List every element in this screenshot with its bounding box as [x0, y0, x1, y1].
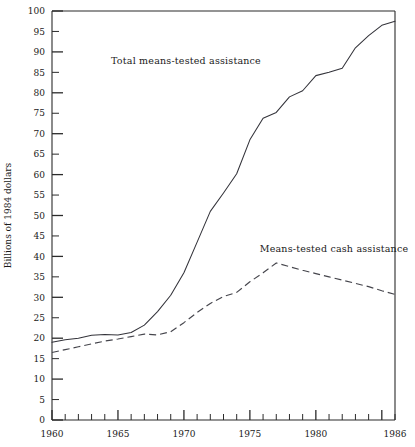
- y-tick-label: 50: [34, 211, 46, 221]
- y-axis-title: Billions of 1984 dollars: [3, 162, 13, 268]
- y-tick-label: 65: [34, 149, 46, 159]
- y-tick-label: 45: [34, 231, 46, 241]
- x-tick-label: 1970: [172, 429, 195, 439]
- y-tick-label: 95: [34, 27, 46, 37]
- y-tick-label: 80: [34, 88, 46, 98]
- x-tick-label: 1965: [107, 429, 130, 439]
- y-tick-label: 15: [34, 354, 46, 364]
- series-line-total-means-tested: [52, 21, 395, 342]
- y-tick-label: 60: [34, 170, 46, 180]
- series-annotation-total-means-tested: Total means-tested assistance: [111, 55, 261, 66]
- chart-container: 0510152025303540455055606570758085909510…: [0, 0, 415, 447]
- x-tick-label: 1960: [41, 429, 64, 439]
- y-tick-label: 40: [34, 252, 46, 262]
- y-tick-label: 100: [28, 6, 45, 16]
- y-tick-label: 5: [39, 395, 45, 405]
- axes-group: [52, 11, 395, 420]
- y-tick-label: 0: [39, 415, 45, 425]
- x-tick-label: 1980: [304, 429, 327, 439]
- y-tick-label: 20: [34, 333, 46, 343]
- x-axis-ticks: [52, 410, 395, 420]
- line-chart-figure: 0510152025303540455055606570758085909510…: [0, 0, 415, 447]
- data-series-group: [52, 21, 395, 352]
- y-tick-label: 70: [34, 129, 46, 139]
- series-annotations: Total means-tested assistanceMeans-teste…: [111, 55, 408, 254]
- series-annotation-means-tested-cash: Means-tested cash assistance: [260, 243, 409, 254]
- y-axis-ticks: [52, 11, 63, 420]
- y-tick-label: 25: [34, 313, 46, 323]
- y-tick-label: 30: [34, 293, 46, 303]
- y-tick-label: 85: [34, 68, 46, 78]
- y-tick-label: 55: [34, 190, 46, 200]
- y-tick-label: 10: [34, 374, 46, 384]
- y-axis-tick-labels: 0510152025303540455055606570758085909510…: [28, 6, 45, 425]
- x-tick-label: 1975: [238, 429, 261, 439]
- y-tick-label: 75: [34, 108, 46, 118]
- x-tick-label: 1986: [384, 429, 407, 439]
- y-tick-label: 90: [34, 47, 46, 57]
- series-line-means-tested-cash: [52, 263, 395, 353]
- y-tick-label: 35: [34, 272, 46, 282]
- x-axis-tick-labels: 196019651970197519801986: [41, 429, 407, 439]
